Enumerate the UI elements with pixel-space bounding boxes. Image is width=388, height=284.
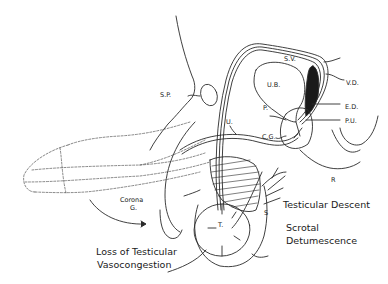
label-symphysis-pubis: S.P.: [160, 92, 171, 99]
label-corona-line1: Corona: [120, 197, 143, 204]
seminal-vesicle: [305, 66, 319, 116]
label-corona-line2: G.: [130, 205, 137, 212]
glans-corona: [60, 148, 66, 193]
label-prostate: P.: [263, 105, 268, 112]
glans-tip: [24, 145, 68, 192]
label-ejaculatory-duct: E.D.: [345, 104, 358, 111]
label-cowpers-gland: C.G.: [262, 134, 276, 141]
penis-outline-mid2: [25, 162, 210, 182]
label-testis: T.: [218, 222, 223, 229]
label-rectum: R: [331, 177, 336, 184]
annotation-loss-line1: Loss of Testicular: [96, 247, 177, 257]
urinary-bladder: [254, 62, 305, 122]
label-urinary-bladder: U.B.: [267, 82, 280, 89]
label-prostatic-urethra: P.U.: [345, 118, 357, 125]
annotation-testicular-descent: Testicular Descent: [283, 200, 370, 210]
penis-outline-top: [68, 122, 190, 145]
label-vas-deferens: V.D.: [346, 80, 359, 87]
label-urethra: U.: [226, 119, 233, 126]
label-seminal-vesicle: S.V.: [284, 56, 296, 63]
flaccid-penis: [165, 122, 195, 232]
symphysis-pubis: [198, 82, 221, 108]
annotation-scrotal-line2: Detumescence: [286, 236, 357, 246]
annotation-scrotal-line1: Scrotal: [286, 223, 319, 233]
annotation-loss-line2: Vasocongestion: [97, 260, 171, 270]
penis-outline-mid1: [32, 153, 205, 170]
label-scrotum: S: [264, 210, 268, 217]
penis-outline-bottom: [35, 172, 200, 193]
